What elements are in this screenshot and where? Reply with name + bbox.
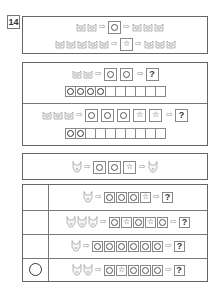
circle-machine — [117, 109, 130, 122]
circle-icon — [77, 130, 84, 137]
arrow-icon: ⇨ — [82, 242, 91, 250]
fox-face-icon — [148, 161, 158, 173]
circle-machine — [120, 68, 133, 81]
star-icon: ☆ — [123, 218, 130, 226]
circle-machine — [104, 192, 115, 203]
circle-icon — [87, 88, 94, 95]
fox-face-icon — [66, 216, 76, 228]
star-icon: ☆ — [142, 193, 149, 201]
question-mark: ? — [179, 111, 185, 120]
fox-face-icon — [72, 264, 82, 276]
circle-icon — [106, 267, 113, 274]
s2-row: ⇨☆⇨? — [49, 190, 207, 204]
circle-icon — [154, 267, 161, 274]
cat-face-icon — [42, 111, 52, 120]
arrow-icon: ⇨ — [165, 111, 174, 119]
star-icon: ☆ — [152, 111, 159, 119]
answer-box[interactable]: ? — [174, 241, 185, 252]
arrow-icon: ⇨ — [75, 111, 84, 119]
star-icon: ☆ — [118, 266, 125, 274]
cat-face-icon — [143, 23, 153, 32]
circle-machine — [108, 161, 121, 174]
arrow-icon: ⇨ — [94, 266, 103, 274]
circle-machine — [133, 217, 144, 228]
circle-machine — [116, 241, 127, 252]
circle-icon — [118, 243, 125, 250]
mark-cell[interactable] — [23, 258, 48, 282]
answer-box[interactable]: ? — [162, 192, 173, 203]
answer-strip — [65, 128, 166, 139]
star-machine: ☆ — [120, 38, 133, 51]
star-machine: ☆ — [116, 265, 127, 276]
arrow-icon: ⇨ — [94, 70, 103, 78]
circle-machine — [128, 265, 139, 276]
arrow-icon: ⇨ — [122, 23, 131, 31]
s2-row: ⇨☆⇨? — [49, 263, 207, 277]
arrow-icon: ⇨ — [138, 163, 147, 171]
mark-cell[interactable] — [23, 234, 48, 258]
s2-row: ⇨☆☆⇨? — [49, 215, 207, 229]
cat-face-icon — [144, 40, 154, 49]
divider — [23, 258, 207, 259]
cat-face-icon — [53, 111, 63, 120]
mark-cell[interactable] — [23, 210, 48, 234]
cat-face-icon — [87, 23, 97, 32]
arrow-icon: ⇨ — [136, 70, 145, 78]
strip-cell[interactable] — [155, 86, 166, 97]
circle-icon — [67, 130, 74, 137]
circle-icon — [118, 194, 125, 201]
cat-face-icon — [55, 40, 65, 49]
question-mark: ? — [149, 70, 155, 79]
answer-circle-mark — [29, 263, 42, 276]
strip-cell[interactable] — [155, 128, 166, 139]
section2-box: ⇨☆⇨?⇨☆☆⇨?⇨⇨?⇨☆⇨? — [22, 184, 208, 282]
fox-face-icon — [71, 240, 81, 252]
circle-icon — [77, 88, 84, 95]
star-machine: ☆ — [123, 161, 136, 174]
circle-icon — [130, 194, 137, 201]
example2-box: ⇨☆⇨ — [22, 153, 208, 180]
circle-machine — [140, 265, 151, 276]
circle-machine — [104, 68, 117, 81]
example2-row: ⇨☆⇨ — [23, 160, 207, 174]
circle-icon — [159, 219, 166, 226]
arrow-icon: ⇨ — [169, 218, 178, 226]
circle-icon — [135, 219, 142, 226]
circle-icon — [96, 164, 103, 171]
circle-machine — [108, 21, 121, 34]
divider — [23, 103, 207, 104]
answer-box[interactable]: ? — [174, 265, 185, 276]
arrow-icon: ⇨ — [98, 23, 107, 31]
arrow-icon: ⇨ — [99, 218, 108, 226]
circle-machine — [92, 241, 103, 252]
circle-machine — [128, 192, 139, 203]
s1-problem-1: ⇨⇨? — [23, 67, 207, 81]
circle-machine — [104, 241, 115, 252]
problem-number: 14 — [7, 15, 20, 29]
answer-box[interactable]: ? — [146, 68, 159, 81]
cat-face-icon — [155, 40, 165, 49]
arrow-icon: ⇨ — [164, 242, 173, 250]
answer-box[interactable]: ? — [175, 109, 188, 122]
star-machine: ☆ — [145, 217, 156, 228]
s1-strip-1 — [23, 85, 207, 98]
circle-icon — [120, 112, 127, 119]
example-row-1: ⇨⇨ — [23, 20, 207, 34]
circle-icon — [142, 267, 149, 274]
cat-face-icon — [154, 23, 164, 32]
s1-problem-2: ⇨☆☆⇨? — [23, 108, 207, 122]
arrow-icon: ⇨ — [134, 40, 143, 48]
cat-face-icon — [83, 70, 93, 79]
answer-box[interactable]: ? — [179, 217, 190, 228]
cat-face-icon — [88, 40, 98, 49]
circle-machine — [116, 192, 127, 203]
mark-cell[interactable] — [23, 185, 48, 210]
circle-machine — [104, 265, 115, 276]
answer-strip — [65, 86, 166, 97]
circle-machine — [157, 217, 168, 228]
circle-machine — [85, 109, 98, 122]
circle-icon — [104, 112, 111, 119]
star-icon: ☆ — [147, 218, 154, 226]
example-row-2: ⇨☆⇨ — [23, 37, 207, 51]
arrow-icon: ⇨ — [83, 163, 92, 171]
